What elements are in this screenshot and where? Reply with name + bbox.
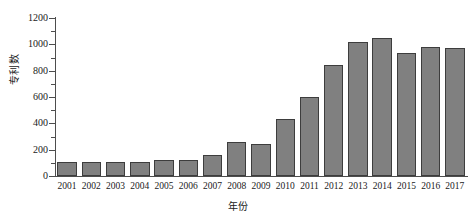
y-axis-tick-label: 0 xyxy=(2,171,48,181)
x-axis-tick-label: 2010 xyxy=(273,180,297,192)
bar-slot xyxy=(106,18,125,176)
bar-2013 xyxy=(348,42,367,176)
bar-slot xyxy=(421,18,440,176)
bar-2007 xyxy=(203,155,222,176)
bar-slot xyxy=(348,18,367,176)
x-axis-tick-label: 2012 xyxy=(322,180,346,192)
x-axis-tick-label: 2003 xyxy=(103,180,127,192)
bar-2006 xyxy=(179,160,198,176)
x-axis-tick-label: 2006 xyxy=(176,180,200,192)
bar-2011 xyxy=(300,97,319,176)
x-axis-tick-label: 2009 xyxy=(249,180,273,192)
y-axis-tick-label: 1000 xyxy=(2,39,48,49)
bar-slot xyxy=(203,18,222,176)
x-axis-tick-label: 2002 xyxy=(79,180,103,192)
y-axis-tick-label: 200 xyxy=(2,145,48,155)
x-axis-line xyxy=(55,176,468,177)
x-axis-tick-label: 2015 xyxy=(394,180,418,192)
bar-slot xyxy=(57,18,76,176)
x-axis-tick-label: 2005 xyxy=(152,180,176,192)
x-axis-tick-label: 2013 xyxy=(346,180,370,192)
bar-slot xyxy=(445,18,464,176)
bar-2009 xyxy=(251,144,270,176)
bar-slot xyxy=(227,18,246,176)
bar-2001 xyxy=(57,162,76,176)
bar-2005 xyxy=(154,160,173,176)
x-axis-tick-label: 2008 xyxy=(225,180,249,192)
bar-2016 xyxy=(421,47,440,176)
bar-slot xyxy=(154,18,173,176)
bar-2012 xyxy=(324,65,343,176)
bar-2008 xyxy=(227,142,246,176)
x-axis-tick-label: 2017 xyxy=(443,180,467,192)
bar-slot xyxy=(324,18,343,176)
x-axis-tick-label: 2007 xyxy=(200,180,224,192)
bar-2010 xyxy=(276,119,295,176)
bar-2015 xyxy=(397,53,416,176)
bar-slot xyxy=(300,18,319,176)
bar-slot xyxy=(82,18,101,176)
x-axis-tick-label: 2014 xyxy=(370,180,394,192)
x-axis-tick-label: 2004 xyxy=(128,180,152,192)
bar-2014 xyxy=(372,38,391,177)
y-axis-tick-label: 600 xyxy=(2,92,48,102)
bar-slot xyxy=(372,18,391,176)
y-axis-tick-label: 800 xyxy=(2,66,48,76)
bar-2004 xyxy=(130,162,149,176)
bar-2003 xyxy=(106,162,125,176)
y-axis-tick-label: 1200 xyxy=(2,13,48,23)
bar-slot xyxy=(276,18,295,176)
x-axis-tick-label: 2001 xyxy=(55,180,79,192)
bar-series xyxy=(55,18,467,176)
bar-slot xyxy=(130,18,149,176)
bar-slot xyxy=(179,18,198,176)
bar-2017 xyxy=(445,48,464,176)
y-axis-tick-label: 400 xyxy=(2,118,48,128)
x-axis-title: 年份 xyxy=(0,198,475,213)
x-axis-tick-label: 2011 xyxy=(297,180,321,192)
bar-2002 xyxy=(82,162,101,176)
x-axis-tick-label: 2016 xyxy=(419,180,443,192)
bar-slot xyxy=(397,18,416,176)
bar-slot xyxy=(251,18,270,176)
patent-count-bar-chart: 专利数 020040060080010001200 20012002200320… xyxy=(0,0,475,219)
x-axis-tick-labels: 2001200220032004200520062007200820092010… xyxy=(55,180,467,194)
